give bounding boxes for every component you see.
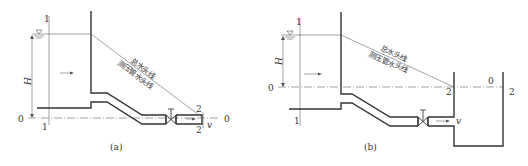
section-2-top-label: 2 [196,104,202,114]
caption-b: (b) [364,142,377,152]
section-1-top-label: 1 [44,14,50,24]
valve-icon [166,109,176,124]
section-2-right-label: 2 [509,87,515,97]
caption-a: (a) [110,142,122,152]
section-1-top-label: 1 [296,17,302,27]
head-label: H [274,57,284,66]
datum-left-label: 0 [268,83,274,93]
arrow-down-icon [30,114,34,118]
section-1-bottom-label: 1 [42,122,48,132]
pipe-outlet [176,115,202,124]
section-2-left-label: 2 [446,87,452,97]
datum-left-label: 0 [18,114,24,124]
datum-right-label: 0 [488,76,494,86]
hydraulic-diagram: 1 1 H 0 0 [0,0,528,166]
section-2-bottom-label: 2 [196,125,202,135]
arrow-right-icon [70,72,74,75]
velocity-label: v [456,116,461,126]
head-label: H [23,77,33,86]
velocity-label: v [207,120,212,130]
pipe-lower-wall [37,102,166,124]
arrow-up-icon [30,35,34,39]
datum-right-label: 0 [224,114,230,124]
valve-icon [418,110,428,126]
pipe-lower-wall [289,103,418,126]
section-1-bottom-label: 1 [294,116,300,126]
panel-b: 1 1 H 0 0 [268,12,515,152]
panel-a: 1 1 H 0 0 [18,11,230,152]
